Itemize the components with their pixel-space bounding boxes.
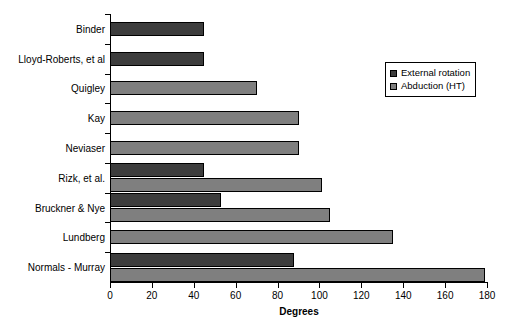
bar <box>110 178 322 192</box>
x-axis-tick <box>152 283 153 288</box>
bar <box>110 81 257 95</box>
x-axis-tick <box>236 283 237 288</box>
x-axis-tick-label: 60 <box>230 290 241 301</box>
x-axis-title: Degrees <box>110 306 488 317</box>
legend-item-label: External rotation <box>401 67 470 79</box>
x-axis-tick-label: 140 <box>395 290 412 301</box>
y-axis-category-label: Binder <box>0 23 105 34</box>
x-axis-tick <box>278 283 279 288</box>
x-axis-tick <box>194 283 195 288</box>
legend-swatch-icon <box>390 70 397 77</box>
bar <box>110 253 294 267</box>
bar <box>110 141 299 155</box>
y-axis-category-label: Kay <box>0 113 105 124</box>
x-axis-tick-label: 40 <box>188 290 199 301</box>
legend-swatch-icon <box>390 83 397 90</box>
y-axis-category-label: Lloyd-Roberts, et al <box>0 53 105 64</box>
x-axis-tick <box>361 283 362 288</box>
x-axis-tick-label: 0 <box>107 290 113 301</box>
bar <box>110 163 204 177</box>
bar <box>110 208 330 222</box>
x-axis-tick-label: 20 <box>146 290 157 301</box>
x-axis-tick-label: 80 <box>272 290 283 301</box>
y-axis-category-label: Normals - Murray <box>0 262 105 273</box>
y-axis-category-label: Quigley <box>0 83 105 94</box>
bar <box>110 230 393 244</box>
x-axis-tick-label: 180 <box>479 290 496 301</box>
y-axis-category-label: Rizk, et al. <box>0 172 105 183</box>
x-axis-tick-label: 120 <box>353 290 370 301</box>
bar <box>110 193 221 207</box>
x-axis-tick-label: 100 <box>311 290 328 301</box>
bar <box>110 22 204 36</box>
bar <box>110 111 299 125</box>
legend-item-label: Abduction (HT) <box>401 80 465 92</box>
x-axis-line <box>110 282 488 283</box>
bar-chart: BinderLloyd-Roberts, et alQuigleyKayNevi… <box>0 0 507 322</box>
plot-area <box>110 14 487 282</box>
x-axis-tick <box>445 283 446 288</box>
bar <box>110 52 204 66</box>
y-axis-category-label: Neviaser <box>0 143 105 154</box>
bar <box>110 268 485 282</box>
x-axis-tick <box>110 283 111 288</box>
x-axis-tick <box>319 283 320 288</box>
x-axis-tick <box>487 283 488 288</box>
y-axis-category-label: Lundberg <box>0 232 105 243</box>
legend-item-external-rotation: External rotation <box>390 67 470 79</box>
y-axis-category-label: Bruckner & Nye <box>0 202 105 213</box>
x-axis-tick <box>403 283 404 288</box>
chart-legend: External rotation Abduction (HT) <box>385 62 476 97</box>
legend-item-abduction-ht: Abduction (HT) <box>390 80 470 92</box>
x-axis-tick-label: 160 <box>437 290 454 301</box>
